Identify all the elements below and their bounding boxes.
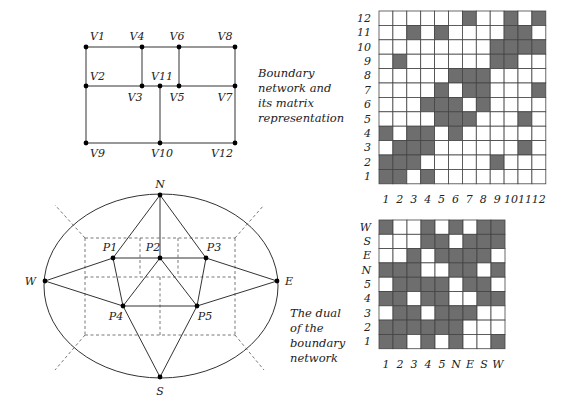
matrix-cell-empty (407, 292, 421, 306)
matrix-cell-empty (462, 126, 476, 140)
edge (123, 306, 160, 377)
matrix-cell-empty (421, 83, 435, 97)
node-label: V8 (218, 30, 233, 43)
matrix-cell-empty (379, 54, 393, 68)
matrix-cell-empty (435, 54, 449, 68)
matrix-cell-filled (449, 249, 463, 263)
matrix-cell-empty (379, 11, 393, 25)
matrix-cell-filled (449, 263, 463, 277)
vertex-dot (84, 45, 89, 50)
matrix-cell-filled (462, 83, 476, 97)
matrix-cell-filled (393, 263, 407, 277)
matrix-cell-empty (532, 126, 546, 140)
matrix-cell-empty (476, 54, 490, 68)
column-label: 5 (438, 193, 445, 206)
matrix-cell-empty (449, 141, 463, 155)
matrix-cell-empty (407, 334, 421, 348)
vertex-dot (177, 45, 182, 50)
row-label: 11 (357, 26, 371, 39)
matrix-cell-filled (491, 334, 505, 348)
matrix-cell-empty (518, 155, 532, 169)
matrix-cell-empty (449, 25, 463, 39)
matrix-cell-filled (393, 141, 407, 155)
matrix-cell-empty (504, 112, 518, 126)
matrix-cell-empty (504, 69, 518, 83)
matrix-cell-empty (407, 54, 421, 68)
matrix-cell-empty (490, 97, 504, 111)
matrix-cell-filled (490, 54, 504, 68)
matrix-cell-empty (476, 169, 490, 183)
matrix-cell-filled (407, 306, 421, 320)
matrix-cell-filled (407, 277, 421, 291)
node-dot (204, 256, 209, 261)
edge (160, 258, 197, 306)
column-label: N (450, 358, 461, 371)
matrix-cell-empty (435, 69, 449, 83)
row-label: W (360, 221, 373, 234)
node-dot (158, 375, 163, 380)
edge (123, 258, 160, 306)
matrix-cell-filled (379, 169, 393, 183)
matrix-cell-empty (518, 69, 532, 83)
row-label: 1 (364, 170, 371, 183)
matrix-cell-filled (490, 40, 504, 54)
node-label: S (156, 385, 164, 398)
vertex-dot (233, 45, 238, 50)
matrix-cell-empty (393, 234, 407, 248)
matrix-cell-empty (490, 11, 504, 25)
matrix-cell-filled (476, 83, 490, 97)
caption-line: Boundary (258, 66, 344, 81)
matrix-cell-filled (477, 220, 491, 234)
matrix-cell-filled (393, 169, 407, 183)
matrix-cell-empty (476, 141, 490, 155)
matrix-cell-filled (504, 40, 518, 54)
dashed-boundary-line (55, 205, 85, 238)
row-label: 8 (364, 69, 371, 82)
edge (206, 258, 277, 281)
node-label: N (154, 178, 165, 191)
node-label: P4 (108, 310, 123, 323)
node-label: W (25, 275, 38, 288)
column-label: 4 (423, 193, 431, 206)
node-dot (158, 256, 163, 261)
matrix-cell-empty (462, 54, 476, 68)
matrix-cell-empty (449, 83, 463, 97)
matrix-cell-filled (421, 169, 435, 183)
matrix-cell-empty (504, 169, 518, 183)
row-label: S (363, 235, 371, 248)
matrix-cell-empty (449, 54, 463, 68)
matrix-cell-filled (407, 126, 421, 140)
matrix-cell-empty (435, 220, 449, 234)
matrix-cell-empty (393, 11, 407, 25)
row-label: 3 (364, 307, 371, 320)
matrix-cell-empty (449, 40, 463, 54)
matrix-cell-filled (449, 69, 463, 83)
matrix-cell-filled (476, 69, 490, 83)
matrix-cell-empty (532, 169, 546, 183)
vertex-dot (177, 84, 182, 89)
dashed-boundary-line (235, 335, 264, 370)
column-label: 7 (466, 193, 473, 206)
row-label: 10 (357, 41, 371, 54)
edge (197, 258, 206, 306)
matrix-cell-empty (532, 69, 546, 83)
row-label: 1 (364, 335, 371, 348)
matrix-cell-empty (435, 126, 449, 140)
row-label: 6 (364, 98, 371, 111)
column-label: 2 (395, 193, 403, 206)
matrix-cell-filled (407, 249, 421, 263)
matrix-cell-empty (393, 97, 407, 111)
matrix-cell-filled (379, 155, 393, 169)
node-label: V12 (211, 147, 233, 160)
matrix-cell-empty (421, 40, 435, 54)
column-label: E (465, 358, 474, 371)
row-label: 7 (364, 84, 371, 97)
matrix-cell-filled (518, 25, 532, 39)
matrix-cell-empty (449, 292, 463, 306)
matrix-cell-empty (449, 169, 463, 183)
row-label: 2 (363, 156, 371, 169)
matrix-cell-empty (532, 25, 546, 39)
matrix-cell-empty (379, 25, 393, 39)
matrix-cell-filled (379, 220, 393, 234)
vertex-dot (84, 84, 89, 89)
